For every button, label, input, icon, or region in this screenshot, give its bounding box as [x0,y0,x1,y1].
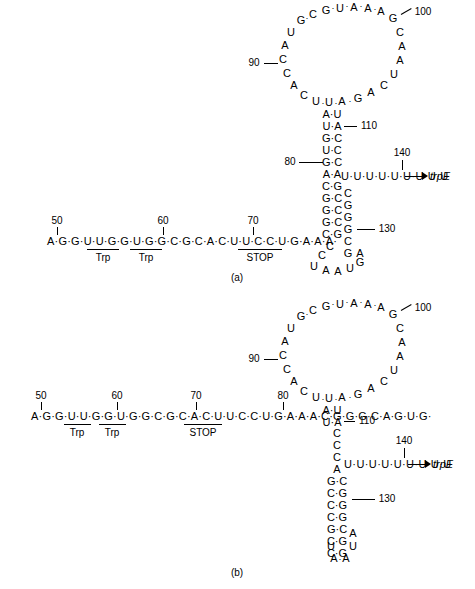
trpe-arrow-head [425,460,431,468]
loop-dot: · [374,4,377,15]
arm-base: G [344,248,353,259]
trp-codon-2-underline [99,424,126,425]
position-tick-90 [264,359,278,360]
position-number-70: 70 [190,391,201,401]
loop-base: U [336,3,344,14]
position-tick-60 [117,402,118,410]
base-pair: G·C [322,216,342,228]
loop-dot: · [346,297,349,308]
loop-base: A [377,6,384,17]
panel-caption-b: (b) [231,568,243,578]
base-pair: U·C [322,144,342,156]
bulge-base: C [333,452,341,463]
position-number-100: 100 [415,7,432,17]
base-pair: G·C [327,475,347,487]
base-pair: C·G [327,487,347,499]
arm-base: G [344,224,353,235]
loop-dot: · [360,297,363,308]
gene-label-trpe: trpE [433,459,453,470]
loop-base: A [338,96,345,107]
position-number-140: 140 [396,436,413,446]
position-number-80: 80 [284,157,295,167]
position-tick-80 [283,402,284,410]
loop-dot: · [349,96,352,107]
loop-base: U [312,392,320,403]
hairpin-base: C [318,250,326,261]
loop-base: U [325,393,333,404]
loop-base: C [309,305,317,316]
loop-base: G [322,5,331,16]
loop-base: U [287,323,295,334]
loop-base: C [309,9,317,20]
loop-base: U [336,299,344,310]
position-tick-140 [404,448,405,458]
loop-base: A [367,87,374,98]
base-pair: G·C [322,156,342,168]
loop-base: G [297,15,306,26]
position-tick-80 [299,162,323,163]
loop-base: U [287,27,295,38]
loop-dot: · [339,554,342,565]
loop-base: U [325,97,333,108]
loop-base: A [350,298,357,309]
loop-base: G [297,311,306,322]
position-tick-130 [357,229,375,230]
hairpin-base: A [330,553,337,564]
position-number-90: 90 [248,354,259,364]
position-tick-70 [196,402,197,410]
loop-dot: · [322,98,325,109]
position-tick-50 [57,227,58,235]
stop-codon-underline [184,424,222,425]
position-number-130: 130 [379,224,396,234]
position-number-140: 140 [394,148,411,158]
arm-base: G [344,212,353,223]
position-tick-60 [163,227,164,235]
hairpin-base: U [327,541,335,552]
loop-dot: · [335,98,338,109]
hairpin-base: U [349,541,357,552]
bulge-base: C [333,428,341,439]
position-number-50: 50 [35,391,46,401]
hairpin-base: A [349,528,356,539]
loop-base: C [396,27,404,38]
loop-base: C [279,54,287,65]
position-number-50: 50 [51,216,62,226]
loop-base: C [380,376,388,387]
hairpin-base: A [342,553,349,564]
trp-codon-2-underline [130,249,162,250]
position-number-70: 70 [247,216,258,226]
loop-base: A [396,351,403,362]
trp-codon-1-label: Trp [70,428,85,438]
loop-base: C [279,350,287,361]
trp-codon-2-label: Trp [105,428,120,438]
loop-base: C [283,364,291,375]
position-tick-100 [401,8,412,15]
loop-base: A [350,2,357,13]
position-number-90: 90 [248,58,259,68]
loop-dot: · [306,309,309,320]
trp-codon-1-label: Trp [96,253,111,263]
loop-base: A [281,336,288,347]
loop-base: A [398,337,405,348]
gene-label-trpe: trpE [430,171,450,182]
loop-base: G [354,93,363,104]
position-tick-140 [402,160,403,170]
arm-base: G [344,200,353,211]
trp-codon-1-underline [64,424,91,425]
loop-base: G [389,309,398,320]
loop-dot: · [349,392,352,403]
base-pair: C·G [322,180,342,192]
loop-dot: · [346,1,349,12]
loop-base: A [338,392,345,403]
trp-codon-2-label: Trp [139,253,154,263]
base-pair: G·C [322,204,342,216]
stem-a: A·U U·A G·C U·C G·C A·A C·G G·C G·C G·C … [322,108,342,240]
position-number-80: 80 [277,391,288,401]
loop-base: A [290,376,297,387]
base-pair: G·C [327,523,347,535]
loop-base: U [390,365,398,376]
loop-dot: · [335,394,338,405]
base-pair: U·A [322,120,342,132]
loop-base: C [300,386,308,397]
base-pair: A·U [322,108,342,120]
